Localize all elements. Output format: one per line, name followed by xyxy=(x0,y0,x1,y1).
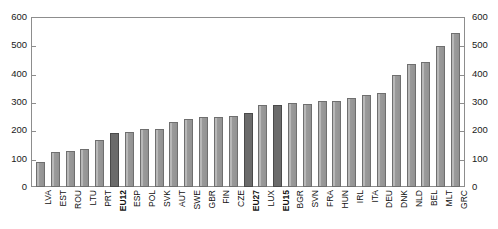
y-axis-tick-mark xyxy=(32,103,36,104)
y-axis-tick-label-left: 200 xyxy=(11,125,27,135)
x-axis-label-slot: ITA xyxy=(359,189,374,229)
y-axis-tick-mark xyxy=(32,160,36,161)
x-axis-label-slot: LVA xyxy=(33,189,48,229)
x-axis-label-slot: EST xyxy=(48,189,63,229)
x-axis-label-slot: AUT xyxy=(166,189,181,229)
y-axis-tick-mark xyxy=(460,160,464,161)
x-axis-label-slot: MLT xyxy=(433,189,448,229)
x-axis-label-slot: FRA xyxy=(315,189,330,229)
x-axis-label-slot: EU27 xyxy=(241,189,256,229)
x-axis-label-slot: DEU xyxy=(374,189,389,229)
y-axis-left: 0100200300400500600 xyxy=(0,0,30,229)
y-axis-tick-label-right: 0 xyxy=(472,182,477,192)
x-axis-label-slot: DNK xyxy=(389,189,404,229)
x-axis-label-slot: IRL xyxy=(344,189,359,229)
x-axis-label-slot: SVK xyxy=(152,189,167,229)
x-axis-label-slot: NLD xyxy=(404,189,419,229)
y-axis-tick-label-left: 0 xyxy=(22,182,27,192)
x-axis-category-labels: LVAESTROULTUPRTEU12ESPPOLSVKAUTSWEGBRFIN… xyxy=(31,189,465,229)
y-axis-tick-label-right: 200 xyxy=(472,125,488,135)
y-axis-tick-label-left: 100 xyxy=(11,154,27,164)
x-axis-label-slot: EU12 xyxy=(107,189,122,229)
y-axis-tick-label-right: 600 xyxy=(472,12,488,22)
y-axis-tick-mark xyxy=(460,131,464,132)
bar-chart: 0100200300400500600 0100200300400500600 … xyxy=(0,0,498,229)
x-axis-label-slot: ROU xyxy=(63,189,78,229)
y-axis-tick-label-left: 500 xyxy=(11,40,27,50)
y-axis-tick-label-right: 500 xyxy=(472,40,488,50)
y-axis-tick-label-right: 100 xyxy=(472,154,488,164)
x-axis-tick-label-grc: GRC xyxy=(460,190,469,209)
y-axis-right: 0100200300400500600 xyxy=(468,0,498,229)
y-axis-tick-mark xyxy=(460,103,464,104)
x-axis-label-slot: LTU xyxy=(77,189,92,229)
y-axis-tick-label-left: 400 xyxy=(11,69,27,79)
x-axis-label-slot: HUN xyxy=(330,189,345,229)
plot-area xyxy=(31,17,465,187)
y-axis-tick-label-left: 600 xyxy=(11,12,27,22)
x-axis-label-slot: POL xyxy=(137,189,152,229)
x-axis-label-slot: BEL xyxy=(419,189,434,229)
y-axis-tick-label-right: 300 xyxy=(472,97,488,107)
x-axis-label-slot: CZE xyxy=(226,189,241,229)
x-axis-label-slot: FIN xyxy=(211,189,226,229)
x-axis-label-slot: ESP xyxy=(122,189,137,229)
x-axis-label-slot: SVN xyxy=(300,189,315,229)
y-axis-tick-mark xyxy=(32,131,36,132)
y-axis-tick-mark xyxy=(460,75,464,76)
y-axis-tick-label-left: 300 xyxy=(11,97,27,107)
x-axis-label-slot: LUX xyxy=(255,189,270,229)
x-axis-label-slot: PRT xyxy=(92,189,107,229)
x-axis-label-slot: GRC xyxy=(448,189,463,229)
x-axis-label-slot: BGR xyxy=(285,189,300,229)
y-axis-tick-label-right: 400 xyxy=(472,69,488,79)
y-axis-tick-mark xyxy=(460,46,464,47)
x-axis-label-slot: EU15 xyxy=(270,189,285,229)
y-axis-tick-mark xyxy=(32,75,36,76)
y-axis-tick-mark xyxy=(32,46,36,47)
x-axis-label-slot: SWE xyxy=(181,189,196,229)
x-axis-label-slot: GBR xyxy=(196,189,211,229)
